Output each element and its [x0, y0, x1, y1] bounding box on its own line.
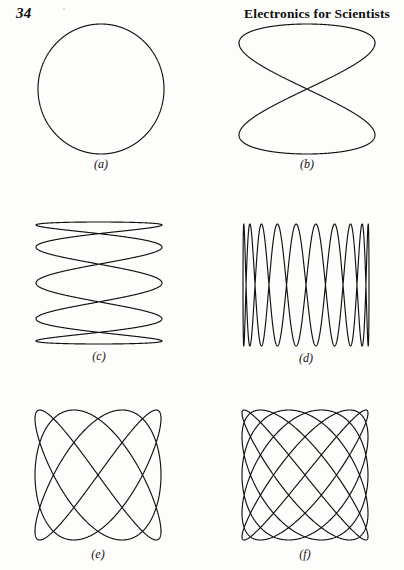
figure-image-e — [0, 408, 202, 542]
figure-caption-d: (d) — [208, 352, 404, 364]
lissajous-curve-e — [35, 410, 161, 540]
figure-panel-e: (e) — [0, 408, 202, 560]
lissajous-plot-c — [34, 220, 164, 346]
lissajous-curve-d — [243, 224, 369, 346]
figure-panel-f: (f) — [202, 408, 404, 560]
figure-image-b — [210, 22, 404, 156]
lissajous-curve-b — [239, 24, 375, 154]
lissajous-plot-d — [241, 222, 371, 348]
paper-speck — [63, 8, 65, 10]
lissajous-plot-f — [240, 408, 370, 542]
figure-image-f — [206, 408, 404, 542]
figure-panel-c: (c) — [0, 220, 202, 362]
figure-caption-a: (a) — [0, 158, 202, 170]
lissajous-curve-c — [36, 222, 162, 344]
lissajous-plot-b — [237, 22, 377, 156]
figure-caption-f: (f) — [206, 548, 404, 560]
book-title: Electronics for Scientists — [244, 6, 390, 22]
figure-image-c — [0, 220, 202, 346]
figure-caption-c: (c) — [0, 350, 202, 362]
figure-caption-b: (b) — [210, 158, 404, 170]
figure-image-a — [0, 22, 202, 156]
figure-panel-a: (a) — [0, 22, 202, 170]
figure-caption-e: (e) — [0, 548, 202, 560]
page-number: 34 — [16, 5, 31, 22]
lissajous-curve-f — [242, 410, 368, 540]
textbook-page: 34 Electronics for Scientists (a)(b)(c)(… — [0, 0, 404, 570]
figure-panel-d: (d) — [202, 222, 404, 364]
figure-panel-b: (b) — [202, 22, 404, 170]
lissajous-curve-a — [38, 24, 164, 154]
lissajous-plot-a — [36, 22, 166, 156]
figure-image-d — [208, 222, 404, 348]
lissajous-plot-e — [33, 408, 163, 542]
